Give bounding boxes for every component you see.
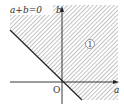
origin-label: O (53, 85, 60, 95)
x-axis-label: a (114, 85, 119, 95)
shaded-region (10, 5, 118, 100)
coordinate-diagram: a+b=0 b a O 1 (0, 0, 124, 107)
y-axis-label: b (56, 5, 62, 15)
line-equation-label: a+b=0 (10, 5, 42, 15)
region-label: 1 (87, 40, 92, 49)
